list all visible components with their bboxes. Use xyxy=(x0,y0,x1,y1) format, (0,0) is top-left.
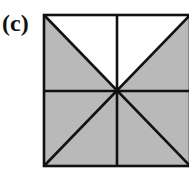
divided-square-diagram xyxy=(0,0,189,173)
outline-lines xyxy=(44,15,189,166)
